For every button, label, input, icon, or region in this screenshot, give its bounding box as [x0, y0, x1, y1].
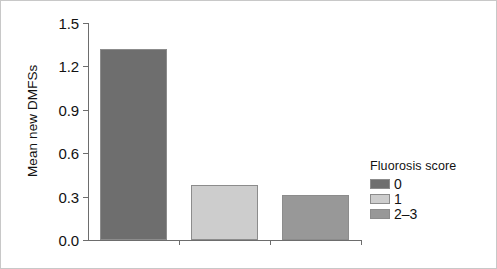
x-tick-mark — [361, 240, 362, 245]
y-tick-mark — [83, 197, 88, 198]
y-tick-label: 1.5 — [58, 15, 79, 32]
y-tick-label: 0.9 — [58, 101, 79, 118]
y-tick-label: 0.6 — [58, 145, 79, 162]
legend-entries: 012–3 — [370, 176, 456, 221]
bar — [191, 185, 258, 240]
plot-area: 0.00.30.60.91.21.5 — [88, 23, 361, 240]
y-axis-line — [88, 23, 89, 240]
y-tick-mark — [83, 23, 88, 24]
x-tick-mark — [270, 240, 271, 245]
bar — [282, 195, 349, 240]
legend-entry: 1 — [370, 191, 456, 206]
legend-entry: 2–3 — [370, 206, 456, 221]
y-tick-label: 1.2 — [58, 58, 79, 75]
y-tick-mark — [83, 110, 88, 111]
legend-entry: 0 — [370, 176, 456, 191]
chart-figure: Mean new DMFSs 0.00.30.60.91.21.5 Fluoro… — [0, 0, 497, 269]
legend-swatch — [370, 194, 390, 204]
y-tick-mark — [83, 240, 88, 241]
legend: Fluorosis score 012–3 — [370, 159, 456, 221]
legend-swatch — [370, 209, 390, 219]
legend-label: 2–3 — [394, 207, 417, 221]
x-axis-line — [88, 240, 362, 241]
y-tick-label: 0.3 — [58, 188, 79, 205]
x-tick-mark — [179, 240, 180, 245]
legend-label: 0 — [394, 177, 402, 191]
legend-swatch — [370, 179, 390, 189]
legend-title: Fluorosis score — [370, 159, 456, 173]
y-tick-mark — [83, 153, 88, 154]
y-tick-label: 0.0 — [58, 232, 79, 249]
y-tick-mark — [83, 66, 88, 67]
bar — [100, 49, 167, 240]
y-axis-label: Mean new DMFSs — [23, 31, 41, 211]
legend-label: 1 — [394, 192, 402, 206]
